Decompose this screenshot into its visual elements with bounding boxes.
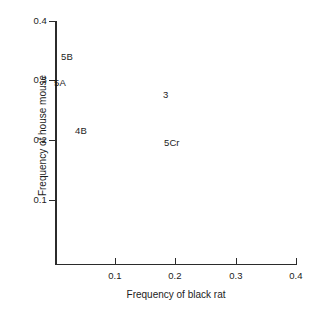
x-axis-tick-0.3 [236, 258, 237, 264]
x-axis-ticklabel-0.3: 0.3 [221, 270, 251, 281]
data-point-label-5A: 5A [54, 77, 66, 88]
y-axis-tick-0.1 [49, 200, 55, 201]
x-axis-ticklabel-0.4: 0.4 [281, 270, 311, 281]
y-axis-tick-0.4 [49, 21, 55, 22]
x-axis-ticklabel-0.1: 0.1 [100, 270, 130, 281]
x-axis-tick-0.1 [115, 258, 116, 264]
y-axis-line [55, 21, 57, 265]
data-point-label-5Cr: 5Cr [164, 137, 180, 148]
x-axis-tick-0.4 [296, 258, 297, 264]
data-point-label-4B: 4B [75, 125, 87, 136]
x-axis-tick-0.2 [175, 258, 176, 264]
x-axis-ticklabel-0.2: 0.2 [160, 270, 190, 281]
data-point-label-3: 3 [163, 89, 168, 100]
x-axis-title: Frequency of black rat [55, 289, 297, 300]
y-axis-title: Frequency of house mouse [37, 21, 48, 251]
data-point-label-5B: 5B [61, 51, 73, 62]
scatter-plot-figure: 0.4 0.3 0.2 0.1 0.1 0.2 0.3 0.4 Frequenc… [0, 0, 314, 313]
y-axis-tick-0.2 [49, 140, 55, 141]
